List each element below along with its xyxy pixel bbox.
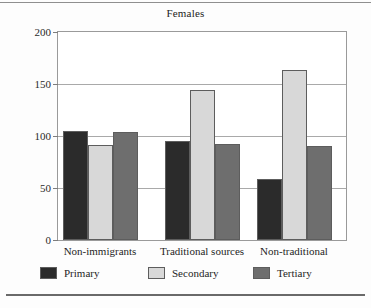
x-label-non-traditional: Non-traditional xyxy=(260,245,328,257)
bar-primary-non-traditional xyxy=(257,179,282,240)
chart-page: Females 050100150200 Non-immigrantsTradi… xyxy=(0,0,371,308)
legend-swatch-tertiary xyxy=(253,267,270,279)
chart-legend: PrimarySecondaryTertiary xyxy=(40,267,340,287)
bar-tertiary-non-traditional xyxy=(307,146,332,240)
y-tick-0 xyxy=(53,240,58,241)
legend-item-primary[interactable]: Primary xyxy=(40,267,99,279)
plot-area: 050100150200 xyxy=(57,31,347,241)
y-tick-label-0: 0 xyxy=(46,234,52,246)
y-tick-50 xyxy=(53,188,58,189)
y-tick-label-150: 150 xyxy=(35,78,52,90)
y-tick-label-50: 50 xyxy=(40,182,51,194)
legend-label-secondary: Secondary xyxy=(172,267,218,279)
legend-swatch-secondary xyxy=(148,267,165,279)
bottom-divider xyxy=(6,294,365,296)
plot-inner: 050100150200 xyxy=(58,32,346,240)
x-axis-category-labels: Non-immigrantsTraditional sourcesNon-tra… xyxy=(57,245,347,263)
y-tick-150 xyxy=(53,84,58,85)
bar-tertiary-traditional-sources xyxy=(215,144,240,240)
bar-secondary-non-traditional xyxy=(282,70,307,240)
y-tick-label-100: 100 xyxy=(35,130,52,142)
y-tick-100 xyxy=(53,136,58,137)
y-tick-200 xyxy=(53,32,58,33)
bar-tertiary-non-immigrants xyxy=(113,132,138,240)
bar-secondary-non-immigrants xyxy=(88,145,113,240)
legend-item-secondary[interactable]: Secondary xyxy=(148,267,218,279)
bar-secondary-traditional-sources xyxy=(190,90,215,240)
legend-item-tertiary[interactable]: Tertiary xyxy=(253,267,312,279)
y-tick-label-200: 200 xyxy=(35,26,52,38)
bar-primary-traditional-sources xyxy=(165,141,190,240)
x-label-traditional-sources: Traditional sources xyxy=(160,245,244,257)
legend-label-tertiary: Tertiary xyxy=(277,267,312,279)
legend-swatch-primary xyxy=(40,267,57,279)
legend-label-primary: Primary xyxy=(64,267,99,279)
chart-title: Females xyxy=(0,7,371,19)
x-label-non-immigrants: Non-immigrants xyxy=(64,245,137,257)
top-divider xyxy=(0,2,371,3)
bar-primary-non-immigrants xyxy=(63,131,88,240)
